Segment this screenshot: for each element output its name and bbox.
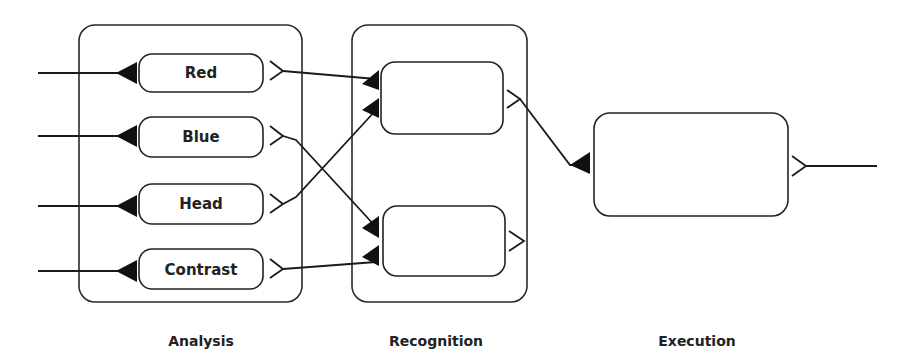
analysis-unit-head: Head bbox=[116, 184, 283, 224]
wire-head-to-recognizer-1 bbox=[283, 110, 376, 204]
unit-box bbox=[383, 206, 505, 276]
input-arrow-icon bbox=[116, 62, 137, 84]
output-chevron-icon bbox=[270, 61, 283, 80]
execution-unit bbox=[570, 113, 806, 216]
wire-red-to-recognizer-1 bbox=[283, 71, 376, 79]
unit-box bbox=[381, 62, 503, 134]
wire-contrast-to-recognizer-2 bbox=[283, 262, 376, 269]
unit-box bbox=[594, 113, 788, 216]
pipeline-diagram: Red Blue Head Contrast Ana bbox=[0, 0, 908, 356]
stage-label-recognition: Recognition bbox=[389, 333, 483, 349]
analysis-unit-blue: Blue bbox=[116, 117, 283, 157]
input-arrow-icon bbox=[116, 125, 137, 147]
unit-label: Blue bbox=[182, 128, 219, 146]
input-arrow-icon bbox=[362, 70, 379, 90]
input-arrow-icon bbox=[116, 195, 137, 217]
unit-label: Head bbox=[179, 195, 223, 213]
stage-label-execution: Execution bbox=[658, 333, 735, 349]
unit-label: Contrast bbox=[165, 261, 238, 279]
output-chevron-icon bbox=[509, 231, 524, 251]
analysis-unit-red: Red bbox=[116, 54, 283, 92]
wire-blue-to-recognizer-2 bbox=[283, 136, 376, 227]
recognition-unit-2 bbox=[362, 206, 524, 276]
recognition-unit-1 bbox=[362, 62, 520, 134]
output-chevron-icon bbox=[270, 126, 283, 145]
input-arrow-icon bbox=[116, 260, 137, 282]
output-chevron-icon bbox=[507, 90, 520, 108]
output-chevron-icon bbox=[792, 156, 806, 176]
unit-label: Red bbox=[185, 64, 217, 82]
wire-recognizer-1-to-executor bbox=[520, 99, 585, 165]
input-arrow-icon bbox=[362, 216, 379, 238]
output-chevron-icon bbox=[270, 194, 283, 213]
input-arrow-icon bbox=[570, 152, 590, 174]
stage-label-analysis: Analysis bbox=[168, 333, 234, 349]
analysis-unit-contrast: Contrast bbox=[116, 249, 283, 289]
output-chevron-icon bbox=[270, 259, 283, 278]
